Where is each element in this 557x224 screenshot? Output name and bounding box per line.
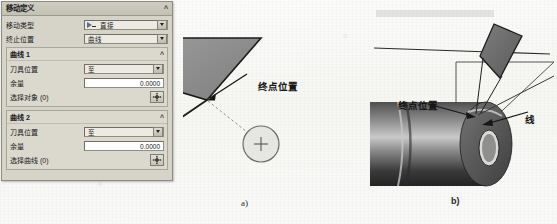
group-curve-1: 曲线 1 ^ 刀具位置 至 余量 0.0000 选择对象 (0) [6,47,168,107]
field-stock-2: 余量 0.0000 [10,139,164,152]
figure-b-diagram [368,6,554,196]
chevron-up-icon[interactable]: ^ [160,114,164,121]
field-tool-position-2-label: 刀具位置 [10,127,84,137]
figure-a-diagram [183,24,333,174]
point-select-icon[interactable] [150,91,164,103]
point-select-icon[interactable] [150,154,164,166]
horizontal-reference-line [374,48,550,54]
stock-2-input[interactable]: 0.0000 [84,141,164,151]
group-curve-1-title: 曲线 1 [10,49,30,59]
dialog-title: 移动定义 [6,2,34,15]
move-definition-dialog: 移动定义 ^ 移动类型 直接 终止位置 曲线 曲线 1 ^ [1,1,173,181]
group-curve-2: 曲线 2 ^ 刀具位置 至 余量 0.0000 选择曲线 (0) [6,110,168,170]
field-tool-position-1-label: 刀具位置 [10,64,84,74]
select-object-1-label: 选择对象 (0) [10,92,49,102]
figure-a-endpoint-label: 终点位置 [258,79,298,93]
group-curve-2-body: 刀具位置 至 余量 0.0000 选择曲线 (0) [7,124,167,167]
dialog-body: 移动类型 直接 终止位置 曲线 曲线 1 ^ 刀具位置 [2,16,172,170]
field-stock-2-label: 余量 [10,141,84,151]
tool-position-1-dropdown[interactable]: 至 [84,64,164,74]
field-select-curve-2: 选择曲线 (0) [10,153,164,167]
group-curve-1-header[interactable]: 曲线 1 ^ [7,48,167,61]
chevron-down-icon[interactable] [157,34,167,44]
move-type-dropdown[interactable]: 直接 [84,20,168,30]
tool-position-1-value: 至 [86,64,153,74]
group-curve-2-header[interactable]: 曲线 2 ^ [7,111,167,124]
field-end-position-label: 终止位置 [6,34,84,44]
field-tool-position-1: 刀具位置 至 [10,62,164,75]
field-stock-1: 余量 0.0000 [10,76,164,89]
chevron-down-icon[interactable] [153,64,163,74]
field-tool-position-2: 刀具位置 至 [10,125,164,138]
tool-position-2-dropdown[interactable]: 至 [84,127,164,137]
chevron-down-icon[interactable] [153,127,163,137]
figure-a-caption: a) [241,198,248,208]
field-stock-1-label: 余量 [10,78,84,88]
field-select-object-1: 选择对象 (0) [10,90,164,104]
end-position-dropdown[interactable]: 曲线 [84,34,168,44]
tool-position-2-value: 至 [86,127,153,137]
select-curve-2-label: 选择曲线 (0) [10,155,49,165]
dashed-construction-line [208,101,247,132]
move-type-value: 直接 [98,20,157,30]
tool-insert-shape [480,24,522,78]
figure-b-caption: b) [451,196,460,206]
tool-contact-edge [478,76,554,115]
group-curve-1-body: 刀具位置 至 余量 0.0000 选择对象 (0) [7,61,167,104]
stock-1-input[interactable]: 0.0000 [84,78,164,88]
chevron-up-icon[interactable]: ^ [160,51,164,58]
field-move-type-label: 移动类型 [6,20,84,30]
figure-b-endpoint-label: 终点位置 [398,98,438,112]
figure-b-line-label: 线 [525,112,535,126]
scanned-header-text [376,10,494,17]
end-position-value: 曲线 [86,34,157,44]
field-end-position: 终止位置 曲线 [6,32,168,45]
tool-move-icon [86,21,97,29]
workpiece-shaft [370,102,512,186]
chevron-up-icon[interactable]: ^ [164,5,168,12]
chevron-down-icon[interactable] [157,20,167,30]
field-move-type: 移动类型 直接 [6,18,168,31]
tool-lower-edge [183,100,207,134]
group-curve-2-title: 曲线 2 [10,112,30,122]
dialog-title-bar: 移动定义 ^ [2,2,172,16]
